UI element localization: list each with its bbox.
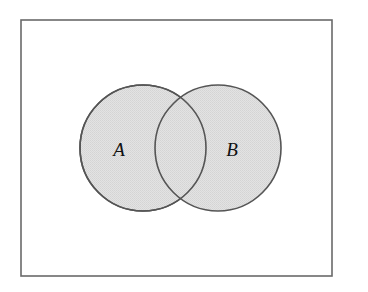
- venn-diagram-canvas: A B: [0, 0, 368, 292]
- set-b-label: B: [226, 139, 238, 160]
- set-b-circle: [155, 85, 281, 211]
- venn-diagram-figure: A B: [0, 0, 368, 292]
- set-a-label: A: [111, 139, 125, 160]
